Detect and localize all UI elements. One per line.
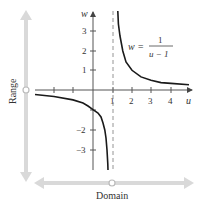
- graph-figure: Range Domain 1 2 3 4 u 3 2 1 −2 −3 w: [0, 0, 207, 204]
- function-equation: w = 1 u − 1: [128, 35, 173, 59]
- domain-label: Domain: [96, 190, 128, 201]
- equation-denominator: u − 1: [149, 49, 169, 59]
- curve-left-branch: [35, 95, 108, 171]
- tick-label-u3: 3: [148, 96, 153, 106]
- tick-label-u1: 1: [110, 96, 115, 106]
- range-label: Range: [7, 78, 18, 104]
- tick-label-u2: 2: [129, 96, 134, 106]
- tick-label-wm3: −3: [76, 145, 86, 155]
- tick-label-u4: 4: [168, 96, 173, 106]
- tick-label-w2: 2: [82, 46, 87, 56]
- tick-label-w1: 1: [82, 65, 87, 75]
- w-axis-label: w: [81, 8, 88, 19]
- domain-bar: [34, 177, 194, 189]
- equation-lhs: w =: [128, 41, 144, 52]
- tick-label-wm2: −2: [76, 125, 86, 135]
- equation-numerator: 1: [158, 35, 163, 45]
- u-axis-label: u: [186, 95, 191, 106]
- range-bar: [20, 10, 32, 182]
- tick-label-w3: 3: [82, 26, 87, 36]
